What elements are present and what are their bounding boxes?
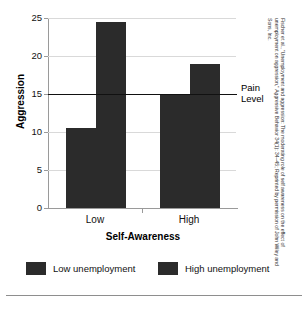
bars-layer	[49, 18, 236, 208]
y-tick-mark	[44, 18, 48, 19]
x-tick-label: High	[159, 214, 219, 225]
legend-swatch	[26, 262, 46, 275]
legend-item: Low unemployment	[26, 262, 135, 275]
x-tick-mark	[142, 208, 143, 213]
pain-level-line-extension	[196, 94, 236, 95]
bar	[190, 64, 220, 208]
y-tick-label: 5	[12, 164, 42, 175]
chart-legend: Low unemploymentHigh unemployment	[26, 262, 256, 278]
y-tick-label: 0	[12, 202, 42, 213]
x-tick-label: Low	[65, 214, 125, 225]
pain-level-label: Pain Level	[241, 83, 264, 104]
pain-level-label-line1: Pain	[241, 83, 264, 94]
legend-label: High unemployment	[185, 263, 270, 274]
bar	[66, 128, 96, 208]
y-axis-title: Aggression	[15, 52, 26, 152]
pain-level-label-line2: Level	[241, 94, 264, 105]
y-tick-label: 25	[12, 12, 42, 23]
x-axis-title: Self-Awareness	[48, 231, 238, 242]
y-tick-mark	[44, 170, 48, 171]
bar	[160, 94, 190, 208]
footer-divider	[6, 295, 302, 296]
legend-swatch	[158, 262, 178, 275]
legend-item: High unemployment	[158, 262, 270, 275]
source-credit: Fischer et al., "Unemployment and aggres…	[266, 18, 286, 274]
y-tick-mark	[44, 56, 48, 57]
y-tick-mark	[44, 132, 48, 133]
legend-label: Low unemployment	[53, 263, 135, 274]
x-axis-line	[48, 208, 238, 209]
bar	[96, 22, 126, 208]
figure-container: 0510152025 Aggression Pain Level LowHigh…	[0, 0, 308, 309]
